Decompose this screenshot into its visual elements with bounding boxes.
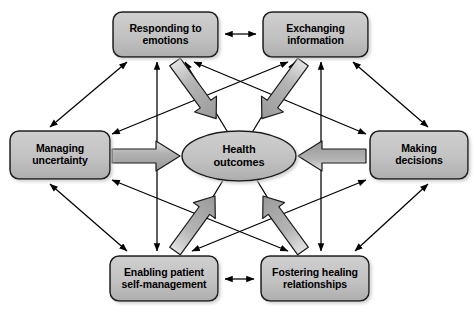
- diagram-graphics: [0, 0, 476, 313]
- arrow-fostering-to-center: [252, 188, 314, 259]
- diagram-canvas: Responding to emotions Exchanging inform…: [0, 0, 476, 313]
- node-shape-health-outcomes[interactable]: [182, 131, 296, 181]
- link-responding-managing-arrow: [50, 62, 127, 127]
- arrow-enabling-to-center: [164, 188, 226, 259]
- node-shape-fostering-healing-relationships[interactable]: [261, 256, 369, 301]
- node-shape-group: [10, 12, 468, 301]
- node-shape-managing-uncertainty[interactable]: [10, 131, 110, 179]
- link-exchanging-making-arrow: [353, 62, 428, 127]
- node-shape-exchanging-information[interactable]: [263, 12, 368, 57]
- link-managing-enabling-arrow: [50, 184, 127, 251]
- node-shape-making-decisions[interactable]: [370, 131, 468, 179]
- link-making-fostering-arrow: [355, 184, 428, 251]
- node-shape-responding-to-emotions[interactable]: [113, 12, 218, 57]
- arrow-managing-to-center: [112, 141, 180, 171]
- node-shape-enabling-patient-self-management[interactable]: [110, 256, 218, 301]
- arrow-making-to-center: [298, 141, 366, 171]
